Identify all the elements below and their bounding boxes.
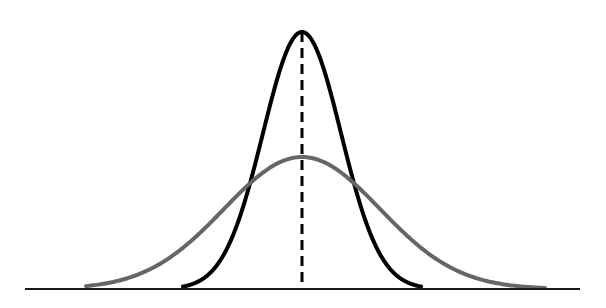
normal-distribution-figure bbox=[0, 0, 606, 308]
distribution-chart-canvas bbox=[0, 0, 606, 308]
